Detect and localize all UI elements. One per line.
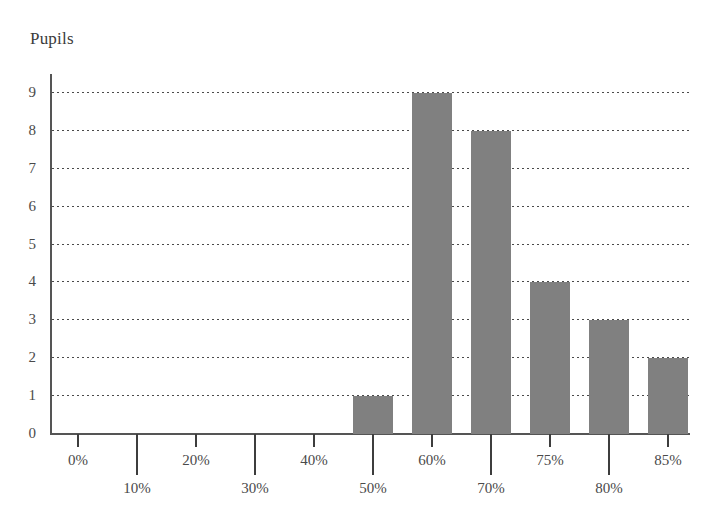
x-tick [195,434,197,447]
x-tick-label: 50% [359,480,387,497]
y-tick-label: 9 [29,83,37,100]
x-tick-label: 70% [477,480,505,497]
gridline [52,206,692,207]
y-tick-label: 2 [29,349,37,366]
x-tick [667,434,669,447]
x-tick [77,434,79,447]
gridline [52,168,692,169]
x-tick-label: 10% [123,480,151,497]
x-tick [372,434,374,475]
gridline [52,92,692,93]
y-tick-label: 5 [29,235,37,252]
x-tick-label: 0% [68,452,88,469]
x-tick [431,434,433,447]
x-tick-label: 85% [654,452,682,469]
x-tick-label: 30% [241,480,269,497]
y-axis-line [50,74,52,435]
y-tick-label: 8 [29,121,37,138]
y-axis-caption: Pupils [30,29,74,49]
bar [412,93,452,434]
bar [353,396,393,434]
x-tick-label: 80% [595,480,623,497]
y-tick-label: 6 [29,197,37,214]
bar [530,282,570,434]
bar [589,320,629,434]
gridline [52,244,692,245]
x-tick-label: 60% [418,452,446,469]
bar [648,358,688,434]
x-tick [490,434,492,475]
x-tick [313,434,315,447]
y-tick-label: 3 [29,311,37,328]
x-tick [549,434,551,447]
gridline [52,281,692,282]
x-tick-label: 75% [536,452,564,469]
gridline [52,130,692,131]
y-tick-label: 1 [29,387,37,404]
y-tick-label: 7 [29,159,37,176]
bar [471,131,511,434]
x-tick-label: 40% [300,452,328,469]
plot-area: 0123456789 0%10%20%30%40%50%60%70%75%80%… [50,74,692,436]
x-tick [608,434,610,475]
y-tick-label: 0 [29,425,37,442]
chart-page: Pupils 0123456789 0%10%20%30%40%50%60%70… [0,0,708,516]
x-tick [136,434,138,475]
x-tick [254,434,256,475]
y-tick-label: 4 [29,273,37,290]
x-tick-label: 20% [182,452,210,469]
